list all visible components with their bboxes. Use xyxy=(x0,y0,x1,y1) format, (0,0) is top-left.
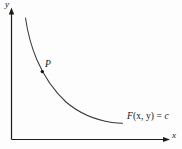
equation-leader-line xyxy=(112,123,123,124)
x-axis-label: x xyxy=(172,131,176,140)
figure-canvas xyxy=(0,0,182,149)
y-axis-label: y xyxy=(5,0,9,9)
curve-equation-label: F(x, y) = c xyxy=(127,112,169,122)
level-curve-figure: y x P F(x, y) = c xyxy=(0,0,182,149)
x-axis-arrowhead xyxy=(163,137,170,142)
point-p-marker xyxy=(41,70,44,73)
y-axis-arrowhead xyxy=(9,8,14,15)
level-curve-path xyxy=(26,18,113,123)
equation-relation: = xyxy=(154,111,164,121)
equation-arguments: (x, y) xyxy=(133,111,154,121)
point-p-label: P xyxy=(45,60,51,70)
equation-constant: c xyxy=(165,111,169,121)
